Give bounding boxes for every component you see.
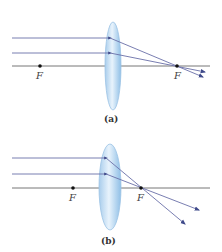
focal-label-right: F: [136, 192, 145, 203]
focal-point-left: [38, 64, 42, 68]
focal-label-right: F: [173, 70, 182, 81]
panel-b: F F (b): [12, 144, 210, 246]
focal-point-left: [71, 186, 75, 190]
panel-caption: (b): [101, 236, 116, 246]
refracted-ray-top: [110, 38, 203, 77]
focal-label-left: F: [68, 192, 77, 203]
focal-label-left: F: [35, 70, 44, 81]
converging-lens: [99, 144, 121, 230]
refracted-ray-middle: [110, 53, 205, 72]
panel-a: F F (a): [12, 22, 210, 124]
panel-caption: (a): [104, 114, 118, 124]
converging-lens-diagram: F F (a) F F (b): [0, 0, 222, 252]
converging-lens: [105, 22, 121, 110]
focal-point-right: [175, 64, 179, 68]
focal-point-right: [139, 186, 143, 190]
